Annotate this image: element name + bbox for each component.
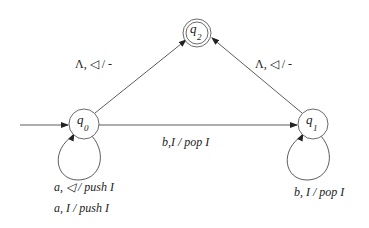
loop-q1 bbox=[287, 135, 329, 180]
label-q1-q2: Λ, ◁ / - bbox=[255, 57, 292, 71]
state-q2-label: q bbox=[190, 21, 197, 36]
state-q2: q 2 bbox=[183, 19, 211, 47]
loop-q0 bbox=[58, 135, 100, 180]
state-q1-label: q bbox=[306, 112, 313, 127]
label-q0-loop-2: a, I / push I bbox=[54, 201, 110, 215]
label-q0-q1: b,I / pop I bbox=[162, 135, 210, 149]
state-q2-subscript: 2 bbox=[197, 32, 202, 42]
edge-q1-q2 bbox=[212, 38, 302, 113]
state-q0: q 0 bbox=[69, 109, 99, 139]
state-q0-subscript: 0 bbox=[84, 123, 89, 133]
state-q0-label: q bbox=[77, 112, 84, 127]
edge-q0-q2 bbox=[95, 40, 186, 113]
label-q0-q2: Λ, ◁ / - bbox=[75, 57, 112, 71]
label-q0-loop-1: a, ◁ / push I bbox=[54, 180, 115, 194]
state-q1-subscript: 1 bbox=[313, 123, 318, 133]
automaton-diagram: q 0 q 1 q 2 Λ, ◁ / - Λ, ◁ / - b,I / pop … bbox=[0, 0, 369, 228]
state-q1: q 1 bbox=[298, 109, 328, 139]
label-q1-loop: b, I / pop I bbox=[294, 185, 345, 199]
